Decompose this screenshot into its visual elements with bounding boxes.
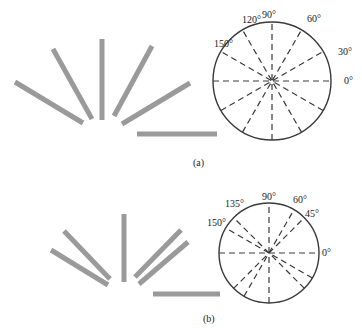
label-60: 60°	[307, 13, 321, 24]
stick-60	[114, 46, 152, 116]
panel-b-sticks	[51, 214, 220, 294]
panel-a: 90° 60° 30° 0° 120° 150° (a)	[15, 9, 353, 169]
label-90: 90°	[262, 191, 276, 202]
label-45: 45°	[305, 208, 319, 219]
label-30: 30°	[338, 46, 352, 57]
panel-b-rose-diagram: 90° 60° 45° 0° 135° 150°	[207, 191, 331, 303]
panel-a-rose-diagram: 90° 60° 30° 0° 120° 150°	[213, 9, 353, 140]
label-0: 0°	[344, 75, 353, 86]
label-0: 0°	[322, 247, 331, 258]
label-150: 150°	[214, 38, 233, 49]
label-120: 120°	[242, 14, 261, 25]
panel-a-sticks	[15, 39, 217, 134]
figure: 90° 60° 30° 0° 120° 150° (a)	[0, 0, 362, 332]
label-60: 60°	[293, 194, 307, 205]
label-135: 135°	[225, 198, 244, 209]
label-150: 150°	[207, 217, 226, 228]
caption-a: (a)	[193, 157, 204, 169]
label-90: 90°	[262, 9, 276, 20]
caption-b: (b)	[203, 313, 215, 325]
stick-30	[122, 83, 190, 124]
panel-b: 90° 60° 45° 0° 135° 150° (b)	[51, 191, 331, 325]
